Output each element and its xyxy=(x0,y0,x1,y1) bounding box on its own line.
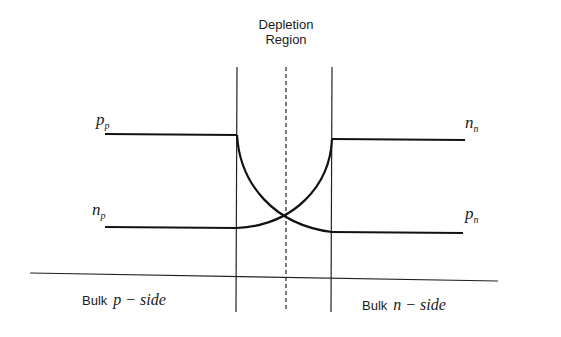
label-bulk-n-side: Bulkn − side xyxy=(362,296,446,313)
np-level-line xyxy=(105,227,237,228)
svg-text:nn: nn xyxy=(465,113,479,134)
pn-level-line xyxy=(332,232,463,233)
baseline xyxy=(30,273,498,281)
svg-text:Bulkp − side: Bulkp − side xyxy=(82,291,166,309)
label-nn: nn xyxy=(465,113,479,134)
pn-junction-diagram: Depletion Region pp np nn pn Bulkp − sid… xyxy=(0,0,561,337)
label-pp: pp xyxy=(95,110,110,131)
pp-level-line xyxy=(105,134,237,135)
label-pn: pn xyxy=(464,204,479,225)
label-np: np xyxy=(92,200,106,221)
svg-text:pp: pp xyxy=(95,110,110,131)
svg-text:np: np xyxy=(92,200,106,221)
svg-text:Bulkn − side: Bulkn − side xyxy=(362,296,446,313)
left-boundary-line xyxy=(236,67,237,312)
depletion-title-line1: Depletion xyxy=(259,17,314,32)
label-bulk-p-side: Bulkp − side xyxy=(82,291,166,309)
right-boundary-line xyxy=(331,67,332,312)
svg-text:pn: pn xyxy=(464,204,479,225)
depletion-title-line2: Region xyxy=(265,32,306,47)
nn-level-line xyxy=(332,139,465,140)
